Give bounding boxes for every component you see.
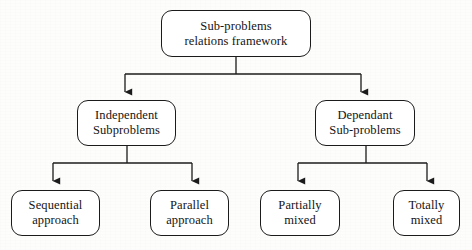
node-sub-problems-relations-framework[interactable]: Sub-problems relations framework: [161, 10, 311, 57]
node-dependant-sub-problems[interactable]: Dependant Sub-problems: [315, 100, 415, 146]
node-label-line-1: Parallel: [170, 198, 209, 213]
node-parallel-approach[interactable]: Parallel approach: [150, 190, 229, 236]
node-label-line-1: Partially: [278, 198, 321, 213]
node-label-line-2: approach: [166, 213, 213, 228]
node-label-line-1: Totally: [409, 198, 445, 213]
node-label-line-1: Sub-problems: [200, 19, 271, 34]
node-label-line-1: Dependant: [337, 108, 392, 123]
node-label-line-2: Sub-problems: [329, 123, 400, 138]
node-label-line-2: mixed: [284, 213, 316, 228]
node-label-line-2: mixed: [411, 213, 443, 228]
node-totally-mixed[interactable]: Totally mixed: [393, 190, 460, 236]
node-sequential-approach[interactable]: Sequential approach: [11, 190, 100, 236]
node-label-line-1: Independent: [95, 108, 158, 123]
node-label-line-2: approach: [32, 213, 79, 228]
node-independent-subproblems[interactable]: Independent Subproblems: [77, 100, 176, 146]
node-label-line-2: relations framework: [185, 34, 288, 49]
diagram-canvas: Sub-problems relations framework Indepen…: [0, 0, 472, 250]
node-label-line-2: Subproblems: [93, 123, 160, 138]
node-partially-mixed[interactable]: Partially mixed: [260, 190, 340, 236]
node-label-line-1: Sequential: [29, 198, 83, 213]
